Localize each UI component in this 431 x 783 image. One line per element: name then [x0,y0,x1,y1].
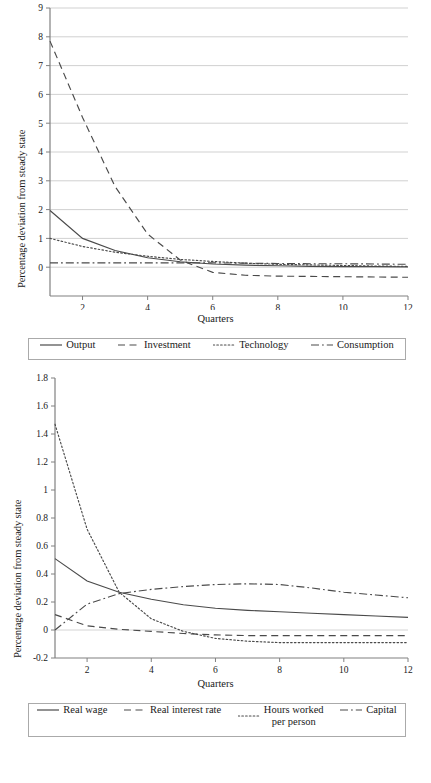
y-axis-tick-label: -0.2 [33,653,48,663]
y-axis-tick-label: 1 [38,234,43,244]
x-axis-tick-label: 10 [338,303,348,310]
legend-line-swatch [213,341,235,349]
x-axis-tick-label: 4 [149,665,154,675]
legend-item[interactable]: Consumption [310,339,395,351]
series-line-technology [50,238,408,266]
line-chart-bottom: -0.200.20.40.60.811.21.41.61.824681012 [0,368,431,680]
legend-item[interactable]: Technology [212,339,289,351]
legend-item[interactable]: Capital [339,704,397,716]
y-axis-tick-label: 9 [38,3,43,13]
y-axis-label-top: Percentage deviation from steady state [16,130,27,288]
x-axis-tick-label: 8 [275,303,280,310]
y-axis-tick-label: 2 [38,205,43,215]
x-axis-tick-label: 2 [80,303,85,310]
x-axis-label-top: Quarters [0,313,431,324]
chart-figure-bottom: -0.200.20.40.60.811.21.41.61.824681012 P… [0,368,431,783]
y-axis-tick-label: 3 [38,176,43,186]
y-axis-tick-label: 0.6 [36,541,48,551]
legend-item-label: Consumption [337,339,394,351]
y-axis-tick-label: 1.8 [36,373,48,383]
legend-item[interactable]: Real interest rate [123,704,222,716]
series-line-investment [50,41,408,277]
y-axis-tick-label: 1.2 [36,457,48,467]
x-axis-tick-label: 12 [403,303,413,310]
y-axis-tick-label: 1.4 [36,429,48,439]
legend-swatch-solid-icon [40,341,62,349]
legend-swatch-dashdot-icon [340,706,362,714]
legend-item-label: Hours workedper person [264,704,324,728]
x-axis-tick-label: 12 [403,665,413,675]
legend-line-swatch [124,706,146,714]
y-axis-tick-label: 8 [38,32,43,42]
y-axis-tick-label: 0.2 [36,597,48,607]
x-axis-tick-label: 2 [85,665,90,675]
series-line-real-interest-rate [55,615,408,636]
legend-swatch-dashed-icon [124,706,146,714]
plot-area-top: 012345678924681012 [0,0,431,310]
legend-top: OutputInvestmentTechnologyConsumption [28,338,406,360]
legend-swatch-solid-icon [37,706,59,714]
legend-item[interactable]: Hours workedper person [237,704,325,728]
y-axis-tick-label: 0 [43,625,48,635]
legend-item[interactable]: Investment [117,339,192,351]
legend-swatch-dotted-icon [238,712,260,720]
x-axis-tick-label: 10 [339,665,349,675]
y-axis-label-bottom: Percentage deviation from steady state [12,500,23,658]
y-axis-tick-label: 0.4 [36,569,48,579]
legend-item-label: Real interest rate [150,704,221,716]
x-axis-tick-label: 6 [213,665,218,675]
legend-line-swatch [40,341,62,349]
y-axis-tick-label: 0 [38,263,43,273]
legend-line-swatch [311,341,333,349]
y-axis-tick-label: 1 [43,485,48,495]
line-chart-top: 012345678924681012 [0,0,431,310]
legend-line-swatch [37,706,59,714]
series-line-real-wage [55,559,408,618]
legend-swatch-dotted-icon [213,341,235,349]
legend-item-label: Investment [144,339,191,351]
y-axis-tick-label: 6 [38,90,43,100]
legend-item-label: Output [66,339,95,351]
legend-line-swatch [340,706,362,714]
y-axis-tick-label: 7 [38,61,43,71]
legend-swatch-dashdot-icon [311,341,333,349]
chart-figure-top: 012345678924681012 Percentage deviation … [0,0,431,368]
y-axis-tick-label: 5 [38,119,43,129]
x-axis-tick-label: 4 [145,303,150,310]
legend-item[interactable]: Output [39,339,96,351]
legend-bottom: Real wageReal interest rateHours workedp… [28,703,406,737]
legend-item-label: Capital [366,704,396,716]
y-axis-tick-label: 1.6 [36,401,48,411]
y-axis-tick-label: 4 [38,147,43,157]
y-axis-tick-label: 0.8 [36,513,48,523]
x-axis-tick-label: 8 [277,665,282,675]
legend-item-label: Technology [239,339,288,351]
legend-swatch-dashed-icon [118,341,140,349]
x-axis-label-bottom: Quarters [0,678,431,689]
legend-item[interactable]: Real wage [36,704,108,716]
plot-area-bottom: -0.200.20.40.60.811.21.41.61.824681012 [0,368,431,680]
x-axis-tick-label: 6 [210,303,215,310]
legend-line-swatch [238,712,260,720]
legend-item-label: Real wage [63,704,107,716]
legend-line-swatch [118,341,140,349]
series-line-capital [55,584,408,630]
